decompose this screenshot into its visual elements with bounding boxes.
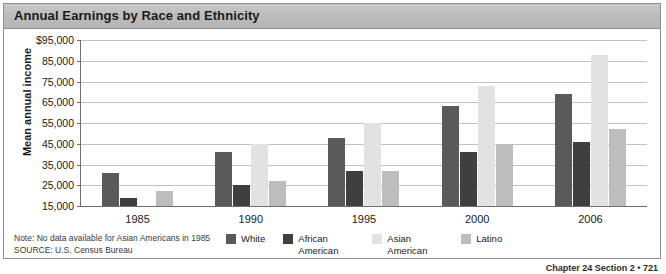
plot-area: $95,00085,00075,00065,00055,00045,00035,… [80,40,647,207]
chart-legend: WhiteAfrican AmericanAsian AmericanLatin… [226,233,502,257]
source-value: U.S. Census Bureau [53,245,133,255]
y-axis-tick-label: 85,000 [42,55,74,67]
y-axis-tick [77,206,81,207]
legend-label: African American [298,233,354,257]
bar-white-1985 [102,173,119,206]
bar-group: 1985 [81,40,194,206]
y-axis-tick-label: $95,000 [36,34,74,46]
figure-source: SOURCE: U.S. Census Bureau [14,244,210,256]
bar-african_american-1985 [120,198,137,206]
bar-african_american-1990 [233,185,250,206]
figure-notes: Note: No data available for Asian Americ… [14,232,210,257]
legend-item-asian_american: Asian American [372,233,443,257]
y-axis-tick-label: 35,000 [42,159,74,171]
legend-swatch-asian_american [372,234,382,244]
page-title: Annual Earnings by Race and Ethnicity [14,8,260,23]
bar-latino-1985 [156,191,173,206]
legend-item-latino: Latino [461,233,502,257]
bar-african_american-2000 [460,152,477,206]
bar-white-2006 [555,94,572,206]
bar-group: 1990 [194,40,307,206]
legend-item-african_american: African American [283,233,354,257]
y-axis-tick-label: 55,000 [42,117,74,129]
y-axis-tick-label: 45,000 [42,138,74,150]
legend-swatch-latino [461,234,471,244]
bar-group: 2000 [421,40,534,206]
legend-item-white: White [226,233,265,257]
book-page-footer: Chapter 24 Section 2 • 721 [546,263,658,274]
figure-frame: Annual Earnings by Race and Ethnicity Me… [3,3,661,259]
bar-asian_american-1995 [364,123,381,206]
y-axis-tick-label: 75,000 [42,76,74,88]
legend-label: Asian American [387,233,443,257]
y-axis-tick-label: 65,000 [42,96,74,108]
legend-label: Latino [476,233,502,245]
source-keyword: SOURCE: [14,245,53,255]
bar-asian_american-1990 [251,144,268,206]
bar-asian_american-2006 [591,55,608,206]
figure-note: Note: No data available for Asian Americ… [14,232,210,244]
legend-swatch-white [226,234,236,244]
plot-area-wrapper: $95,00085,00075,00065,00055,00045,00035,… [80,40,647,207]
y-axis-title: Mean annual income [21,32,33,172]
x-axis-tick-label: 2006 [534,213,647,225]
bar-latino-1990 [269,181,286,206]
bar-white-2000 [442,106,459,206]
bar-white-1990 [215,152,232,206]
bar-latino-2000 [496,144,513,206]
legend-swatch-african_american [283,234,293,244]
chart-page: Annual Earnings by Race and Ethnicity Me… [0,0,666,274]
y-axis-tick-label: 15,000 [42,200,74,212]
x-axis-tick-label: 1990 [194,213,307,225]
legend-label: White [241,233,265,245]
bar-asian_american-2000 [478,86,495,206]
bar-latino-1995 [382,171,399,206]
bar-group: 2006 [534,40,647,206]
bar-group: 1995 [307,40,420,206]
y-axis-tick-label: 25,000 [42,179,74,191]
figure-title-band: Annual Earnings by Race and Ethnicity [4,4,660,29]
x-axis-tick-label: 1995 [307,213,420,225]
bar-latino-2006 [609,129,626,206]
x-axis-tick-label: 1985 [81,213,194,225]
bar-white-1995 [328,138,345,206]
bar-african_american-1995 [346,171,363,206]
x-axis-tick-label: 2000 [421,213,534,225]
bar-african_american-2006 [573,142,590,206]
